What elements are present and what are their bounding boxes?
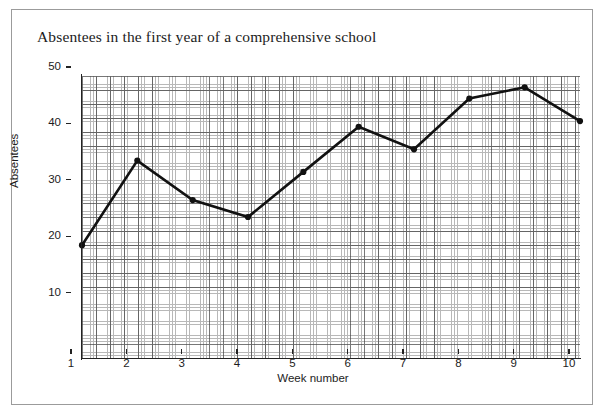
data-point [134, 158, 140, 164]
x-tick-mark [568, 349, 569, 354]
x-tick-label: 3 [172, 357, 192, 369]
x-tick-mark [347, 349, 348, 354]
plot-area [82, 76, 580, 358]
x-axis-label: Week number [0, 372, 604, 384]
y-tick-mark [66, 123, 71, 124]
x-tick-label: 10 [559, 357, 579, 369]
x-tick-label: 9 [504, 357, 524, 369]
data-point [466, 95, 472, 101]
x-tick-mark [126, 349, 127, 354]
y-tick-mark [66, 66, 71, 67]
y-tick-label: 10 [35, 286, 61, 298]
data-point [411, 146, 417, 152]
series-markers-absentees [79, 84, 583, 248]
chart-frame: Absentees in the first year of a compreh… [11, 9, 593, 405]
page-canvas: Absentees in the first year of a compreh… [0, 0, 604, 410]
data-point [356, 124, 362, 130]
x-tick-mark [70, 349, 71, 354]
data-point [190, 197, 196, 203]
page-title: Absentees in the first year of a compreh… [37, 28, 376, 46]
x-tick-label: 8 [448, 357, 468, 369]
x-tick-mark [513, 349, 514, 354]
x-tick-mark [181, 349, 182, 354]
y-tick-mark [66, 236, 71, 237]
y-tick-label: 20 [35, 229, 61, 241]
x-tick-mark [402, 349, 403, 354]
x-tick-label: 1 [61, 357, 81, 369]
data-point [300, 169, 306, 175]
data-point [522, 84, 528, 90]
x-tick-label: 5 [282, 357, 302, 369]
y-axis-line [81, 74, 82, 360]
y-tick-mark [66, 179, 71, 180]
y-axis-label: Absentees [8, 134, 20, 188]
x-tick-mark [236, 349, 237, 354]
x-tick-label: 4 [227, 357, 247, 369]
line-series-svg [82, 76, 580, 358]
x-tick-label: 6 [338, 357, 358, 369]
series-line-absentees [82, 87, 580, 245]
x-tick-label: 7 [393, 357, 413, 369]
x-tick-label: 2 [116, 357, 136, 369]
data-point [577, 118, 583, 124]
y-tick-mark [66, 292, 71, 293]
x-tick-mark [458, 349, 459, 354]
data-point [245, 214, 251, 220]
y-tick-label: 40 [35, 116, 61, 128]
y-tick-label: 50 [35, 60, 61, 72]
y-tick-label: 30 [35, 173, 61, 185]
x-tick-mark [292, 349, 293, 354]
x-axis-label-text: Week number [277, 372, 348, 384]
